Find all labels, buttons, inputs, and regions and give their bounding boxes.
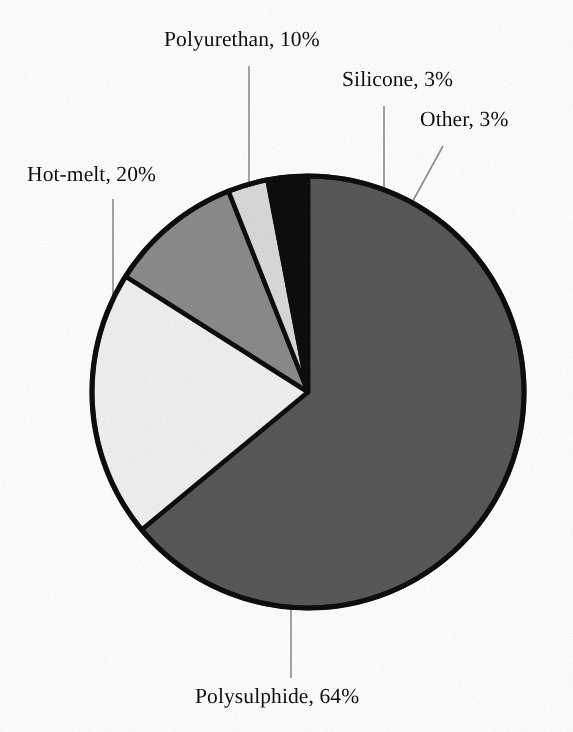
leader-line-other — [409, 146, 443, 208]
slice-label-hot-melt: Hot-melt, 20% — [27, 163, 156, 186]
pie-chart-figure: Polyurethan, 10% Silicone, 3% Other, 3% … — [0, 0, 573, 732]
slice-label-polyurethan: Polyurethan, 10% — [164, 28, 320, 51]
slice-label-other: Other, 3% — [420, 108, 508, 131]
slice-label-silicone: Silicone, 3% — [342, 68, 453, 91]
slice-label-polysulphide: Polysulphide, 64% — [195, 685, 359, 708]
